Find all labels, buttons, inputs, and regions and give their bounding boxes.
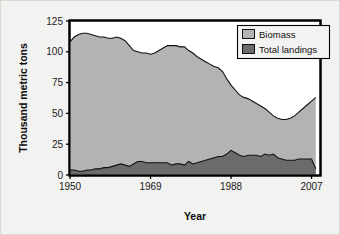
y-axis-tick-labels: 0255075100125 bbox=[46, 16, 63, 181]
legend-label-total-landings: Total landings bbox=[259, 44, 317, 55]
area-chart: 0255075100125 1950196919882007 Year Thou… bbox=[1, 1, 340, 235]
x-tick-label: 1950 bbox=[59, 181, 82, 192]
y-tick-label: 25 bbox=[52, 139, 64, 150]
x-tick-label: 1969 bbox=[139, 181, 162, 192]
y-tick-label: 0 bbox=[57, 170, 63, 181]
y-axis-title: Thousand metric tons bbox=[17, 43, 29, 153]
chart-figure: 0255075100125 1950196919882007 Year Thou… bbox=[0, 0, 340, 235]
y-tick-label: 100 bbox=[46, 46, 63, 57]
y-tick-label: 50 bbox=[52, 108, 64, 119]
legend-label-biomass: Biomass bbox=[259, 29, 296, 40]
x-axis-tick-labels: 1950196919882007 bbox=[59, 181, 323, 192]
x-tick-label: 2007 bbox=[300, 181, 323, 192]
y-tick-label: 125 bbox=[46, 16, 63, 27]
x-tick-label: 1988 bbox=[220, 181, 243, 192]
chart-legend: Biomass Total landings bbox=[238, 26, 330, 59]
x-axis-title: Year bbox=[184, 210, 206, 222]
y-tick-label: 75 bbox=[52, 77, 64, 88]
legend-swatch-biomass bbox=[243, 30, 255, 39]
legend-swatch-total-landings bbox=[243, 45, 255, 54]
